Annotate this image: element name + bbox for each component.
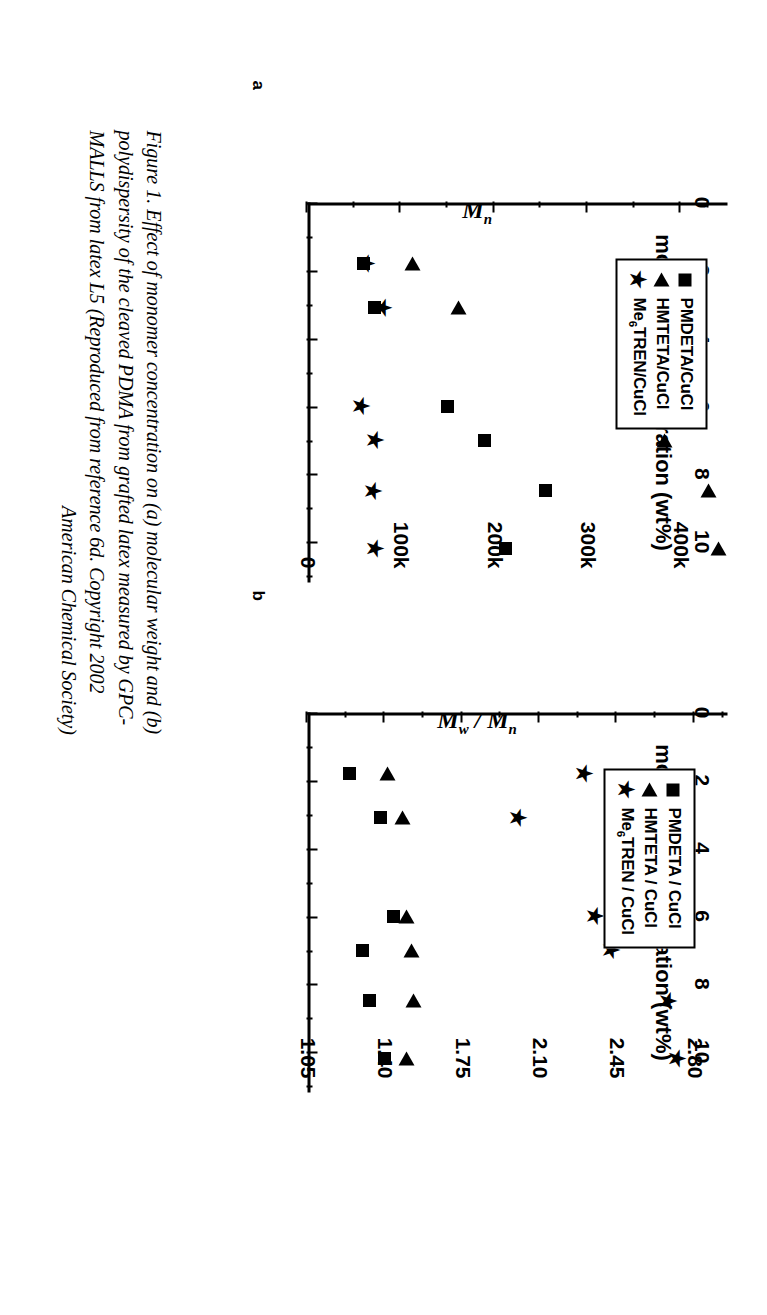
- y-tick-label: 1.05: [295, 1037, 319, 1078]
- y-minor-tick: [538, 201, 540, 207]
- y-tick: [382, 711, 384, 722]
- data-point-triangle: [398, 909, 414, 923]
- y-tick: [460, 711, 462, 722]
- x-minor-tick: [306, 950, 312, 952]
- y-tick-label: 0: [295, 556, 319, 568]
- legend-label: PMDETA/CuCl: [675, 297, 695, 410]
- y-tick-label: 2.10: [527, 1037, 551, 1078]
- data-point-star: [358, 252, 372, 274]
- y-minor-tick: [498, 711, 500, 717]
- legend-label: Me6TREN / CuCl: [614, 807, 635, 934]
- data-point-star: [587, 905, 601, 927]
- y-minor-tick: [445, 201, 447, 207]
- y-tick: [305, 201, 307, 212]
- data-point-square: [373, 811, 386, 824]
- x-minor-tick: [306, 507, 312, 509]
- x-minor-tick: [306, 1085, 312, 1087]
- data-point-square: [498, 542, 511, 555]
- x-tick: [306, 473, 317, 475]
- caption-line: American Chemical Society): [53, 130, 81, 1110]
- square-marker-icon: [679, 268, 692, 290]
- x-tick: [306, 406, 317, 408]
- data-point-star: [367, 429, 381, 451]
- y-minor-tick: [721, 711, 723, 717]
- x-tick: [306, 780, 317, 782]
- y-minor-tick: [653, 711, 655, 717]
- x-tick: [306, 712, 317, 714]
- legend-b: PMDETA / CuCl HMTETA / CuCl Me6TREN / Cu…: [603, 768, 695, 948]
- x-minor-tick: [306, 236, 312, 238]
- legend-row: HMTETA/CuCl: [649, 268, 673, 415]
- y-minor-tick: [421, 711, 423, 717]
- data-point-star: [576, 762, 590, 784]
- triangle-marker-icon: [653, 268, 669, 290]
- data-point-triangle: [656, 433, 672, 447]
- x-tick: [306, 338, 317, 340]
- caption-line: Figure 1. Effect of monomer concentratio…: [139, 130, 167, 1110]
- data-point-square: [441, 399, 454, 412]
- y-tick-label: 300k: [575, 521, 599, 568]
- y-tick: [692, 711, 694, 722]
- data-point-square: [356, 943, 369, 956]
- data-point-square: [343, 767, 356, 780]
- panel-a: a monomer concentration (wt%) Mn 0246810…: [207, 130, 767, 600]
- legend-label: Me6TREN/CuCl: [626, 297, 647, 415]
- figure-caption: Figure 1. Effect of monomer concentratio…: [53, 130, 167, 1110]
- star-marker-icon: [630, 268, 644, 290]
- y-minor-tick: [352, 201, 354, 207]
- legend-row: PMDETA / CuCl: [661, 778, 685, 934]
- y-tick-label: 2.45: [604, 1037, 628, 1078]
- data-point-triangle: [379, 766, 395, 780]
- data-point-triangle: [405, 993, 421, 1007]
- caption-line: MALLS from latex L5 (Reproduced from ref…: [82, 130, 110, 1110]
- data-point-triangle: [450, 300, 466, 314]
- data-point-triangle: [710, 541, 726, 555]
- y-tick: [492, 201, 494, 212]
- x-tick: [306, 541, 317, 543]
- x-tick-label: 8: [689, 978, 713, 990]
- data-point-square: [539, 484, 552, 497]
- x-tick: [306, 916, 317, 918]
- data-point-triangle: [403, 943, 419, 957]
- x-minor-tick: [306, 746, 312, 748]
- x-minor-tick: [306, 575, 312, 577]
- data-point-triangle: [700, 483, 716, 497]
- y-minor-tick: [344, 711, 346, 717]
- x-minor-tick: [306, 814, 312, 816]
- data-point-star: [660, 990, 674, 1012]
- data-point-triangle: [394, 810, 410, 824]
- y-minor-tick: [706, 201, 708, 207]
- data-point-star: [353, 395, 367, 417]
- y-minor-tick: [632, 201, 634, 207]
- y-tick: [398, 201, 400, 212]
- data-point-star: [375, 296, 389, 318]
- legend-row: HMTETA / CuCl: [637, 778, 661, 934]
- panel-b: b monomer concentration (wt%) Mw / Mn 02…: [207, 640, 767, 1110]
- panel-b-letter: b: [247, 590, 267, 600]
- y-minor-tick: [576, 711, 578, 717]
- legend-label: PMDETA / CuCl: [663, 807, 683, 928]
- y-tick-label: 1.75: [450, 1037, 474, 1078]
- caption-line: polydispersity of the cleaved PDMA from …: [110, 130, 138, 1110]
- y-tick-label: 100k: [388, 521, 412, 568]
- y-axis-title-b: Mw / Mn: [437, 706, 517, 737]
- x-tick: [306, 202, 317, 204]
- x-tick: [306, 270, 317, 272]
- x-minor-tick: [306, 372, 312, 374]
- x-axis-line-b: [307, 712, 310, 1092]
- y-tick: [305, 711, 307, 722]
- data-point-square: [378, 1052, 391, 1065]
- star-marker-icon: [618, 778, 632, 800]
- x-minor-tick: [306, 882, 312, 884]
- y-tick: [678, 201, 680, 212]
- data-point-square: [387, 909, 400, 922]
- data-point-star: [669, 1047, 683, 1069]
- y-tick: [537, 711, 539, 722]
- x-minor-tick: [306, 1017, 312, 1019]
- data-point-star: [365, 480, 379, 502]
- figure-root: a monomer concentration (wt%) Mn 0246810…: [0, 0, 767, 1315]
- data-point-square: [362, 994, 375, 1007]
- legend-label: HMTETA/CuCl: [651, 297, 671, 409]
- square-marker-icon: [667, 778, 680, 800]
- triangle-marker-icon: [641, 778, 657, 800]
